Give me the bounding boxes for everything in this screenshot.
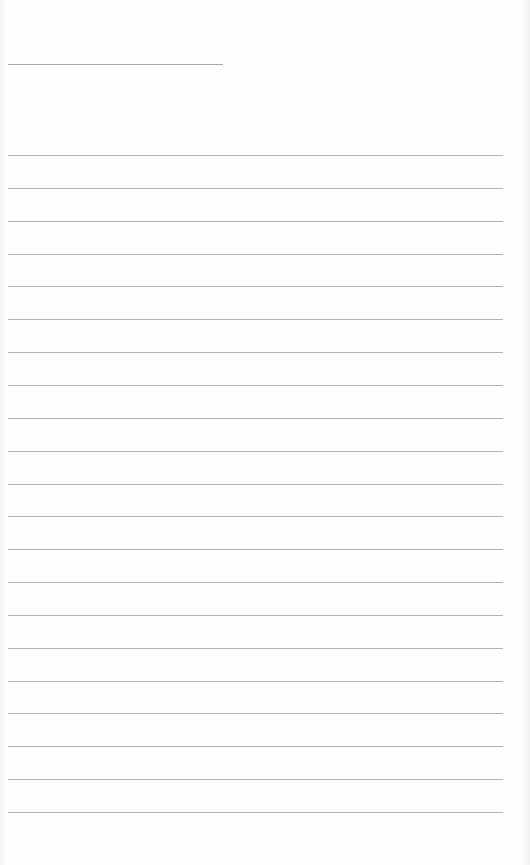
ruled-line	[8, 713, 503, 714]
ruled-line	[8, 549, 503, 550]
ruled-line	[8, 746, 503, 747]
lined-paper-page	[0, 0, 530, 865]
ruled-line	[8, 648, 503, 649]
ruled-line	[8, 286, 503, 287]
ruled-line	[8, 352, 503, 353]
ruled-line	[8, 582, 503, 583]
ruled-line	[8, 221, 503, 222]
ruled-line	[8, 188, 503, 189]
ruled-line	[8, 615, 503, 616]
ruled-line	[8, 516, 503, 517]
ruled-line	[8, 155, 503, 156]
ruled-line	[8, 484, 503, 485]
name-date-line	[8, 64, 223, 65]
ruled-line	[8, 779, 503, 780]
ruled-line	[8, 319, 503, 320]
ruled-line	[8, 254, 503, 255]
ruled-line	[8, 451, 503, 452]
ruled-line	[8, 418, 503, 419]
ruled-line	[8, 681, 503, 682]
ruled-line	[8, 385, 503, 386]
ruled-line	[8, 812, 503, 813]
